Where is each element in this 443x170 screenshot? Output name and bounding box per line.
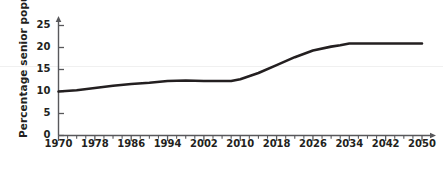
x-tick-label-1978: 1978 [77,138,113,149]
x-tick-label-2034: 2034 [331,138,367,149]
x-tick-label-2026: 2026 [295,138,331,149]
x-tick-label-2042: 2042 [368,138,404,149]
x-tick-label-2010: 2010 [222,138,258,149]
x-tick-label-2050: 2050 [404,138,440,149]
y-tick-label-15: 15 [29,63,51,74]
x-tick-label-1970: 1970 [41,138,77,149]
y-axis-arrow-icon [56,16,62,22]
data-line-series [59,44,423,92]
x-tick-label-2018: 2018 [259,138,295,149]
x-tick-label-2002: 2002 [186,138,222,149]
y-tick-label-5: 5 [29,107,51,118]
y-tick-label-25: 25 [29,19,51,30]
y-axis-ticks [59,26,65,136]
x-tick-label-1986: 1986 [113,138,149,149]
chart-container: Percentage senior population 0510152025 … [0,0,443,170]
x-tick-label-1994: 1994 [150,138,186,149]
y-tick-label-10: 10 [29,85,51,96]
y-tick-label-20: 20 [29,41,51,52]
